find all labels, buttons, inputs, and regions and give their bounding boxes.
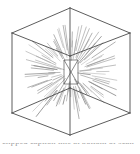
clipped-caption-strip: clipped caption line at bottom of scan (0, 143, 140, 154)
figure-container: clipped caption line at bottom of scan (0, 0, 140, 154)
cube-perspective-diagram (0, 0, 140, 154)
caption-text: clipped caption line at bottom of scan (2, 143, 138, 147)
